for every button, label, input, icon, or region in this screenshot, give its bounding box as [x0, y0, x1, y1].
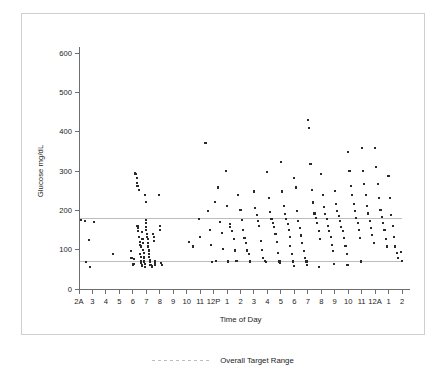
y-tick-label: 200	[59, 206, 72, 215]
data-point	[253, 190, 255, 192]
data-point	[215, 260, 217, 262]
data-point	[320, 173, 322, 175]
data-point	[265, 261, 267, 263]
data-point	[365, 194, 367, 196]
data-point	[140, 262, 142, 264]
data-point	[130, 257, 132, 259]
data-point	[274, 233, 276, 235]
data-point	[225, 170, 227, 172]
data-point	[307, 119, 309, 121]
data-point	[142, 242, 144, 244]
data-point	[268, 197, 270, 199]
data-point	[198, 218, 200, 220]
data-point	[371, 234, 373, 236]
data-point	[137, 227, 139, 229]
data-point	[333, 263, 335, 265]
data-point	[209, 229, 211, 231]
data-point	[217, 186, 219, 188]
data-point	[389, 197, 391, 199]
data-point	[344, 245, 346, 247]
data-point	[233, 238, 235, 240]
data-point	[377, 183, 379, 185]
data-point	[373, 242, 375, 244]
data-point	[378, 197, 380, 199]
x-axis-ticks: 2A3456789101112P123456789101112A12	[74, 289, 404, 306]
data-point	[279, 262, 281, 264]
data-point	[153, 240, 155, 242]
data-point	[141, 238, 143, 240]
x-tick-label: 12P	[207, 297, 221, 306]
data-point	[358, 229, 360, 231]
data-point	[130, 250, 132, 252]
data-point	[330, 236, 332, 238]
data-point	[354, 210, 356, 212]
data-point	[284, 213, 286, 215]
data-point	[293, 177, 295, 179]
chart-card: 0100200300400500600 2A3456789101112P1234…	[21, 13, 425, 335]
data-point	[136, 182, 138, 184]
data-point	[361, 147, 363, 149]
data-point	[401, 260, 403, 262]
x-tick-label: 7	[144, 297, 148, 306]
data-point	[226, 205, 228, 207]
target-range-lines	[79, 218, 402, 261]
data-point	[210, 244, 212, 246]
data-point	[394, 245, 396, 247]
data-point	[257, 220, 259, 222]
data-point	[138, 189, 140, 191]
data-point	[144, 194, 146, 196]
data-point	[89, 266, 91, 268]
data-point	[369, 220, 371, 222]
data-point	[346, 253, 348, 255]
x-tick-label: 1	[386, 297, 390, 306]
x-tick-label: 3	[252, 297, 256, 306]
data-point	[204, 142, 206, 144]
data-point	[137, 230, 139, 232]
data-point	[350, 185, 352, 187]
data-point	[159, 229, 161, 231]
data-point	[335, 203, 337, 205]
data-point	[160, 262, 162, 264]
data-point	[249, 260, 251, 262]
data-point	[245, 242, 247, 244]
data-point	[311, 189, 313, 191]
data-point	[339, 220, 341, 222]
x-tick-label: 8	[319, 297, 323, 306]
glucose-scatter-svg: 0100200300400500600 2A3456789101112P1234…	[22, 14, 426, 336]
data-point	[144, 263, 146, 265]
data-point	[231, 230, 233, 232]
data-point	[295, 186, 297, 188]
chart-legend: Overall Target Range	[21, 352, 425, 368]
x-tick-label: 8	[158, 297, 162, 306]
data-point	[362, 170, 364, 172]
data-point	[243, 237, 245, 239]
x-tick-label: 12A	[368, 297, 382, 306]
data-point	[353, 203, 355, 205]
data-point	[281, 190, 283, 192]
data-point	[221, 232, 223, 234]
data-point	[283, 205, 285, 207]
data-point-layer	[80, 119, 403, 269]
scatter-plot-area: 0100200300400500600 2A3456789101112P1234…	[22, 14, 426, 336]
y-tick-label: 300	[59, 167, 72, 176]
data-point	[144, 266, 146, 268]
data-point	[234, 249, 236, 251]
data-point	[219, 221, 221, 223]
data-point	[383, 229, 385, 231]
data-point	[305, 260, 307, 262]
data-point	[207, 210, 209, 212]
data-point	[246, 249, 248, 251]
x-tick-label: 11	[358, 297, 366, 306]
data-point	[140, 256, 142, 258]
data-point	[133, 258, 135, 260]
data-point	[145, 219, 147, 221]
data-point	[367, 212, 369, 214]
data-point	[288, 229, 290, 231]
data-point	[355, 217, 357, 219]
data-point	[261, 249, 263, 251]
data-point	[136, 177, 138, 179]
data-point	[324, 213, 326, 215]
data-point	[343, 237, 345, 239]
data-point	[273, 226, 275, 228]
data-point	[381, 216, 383, 218]
